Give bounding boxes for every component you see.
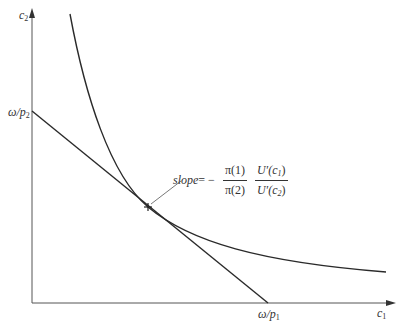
y-intercept-label: ω/p2 (8, 106, 30, 120)
indifference-curve (70, 14, 386, 272)
consumption-diagram: c2 c1 ω/p2 ω/p1 slope = − π(1) π(2) U′(c… (0, 0, 401, 328)
slope-annotation: slope = − π(1) π(2) U′(c1) U′(c2) (173, 163, 292, 198)
slope-word: slope (173, 173, 198, 188)
y-axis-arrow-icon (29, 8, 35, 18)
x-axis-label: c1 (377, 307, 386, 321)
marginal-utility-ratio: U′(c1) U′(c2) (255, 163, 288, 198)
y-axis-label: c2 (19, 9, 28, 23)
equals-minus: = − (198, 173, 215, 188)
probability-ratio: π(1) π(2) (223, 163, 247, 198)
x-intercept-label: ω/p1 (258, 308, 280, 322)
x-axis-arrow-icon (386, 300, 396, 306)
